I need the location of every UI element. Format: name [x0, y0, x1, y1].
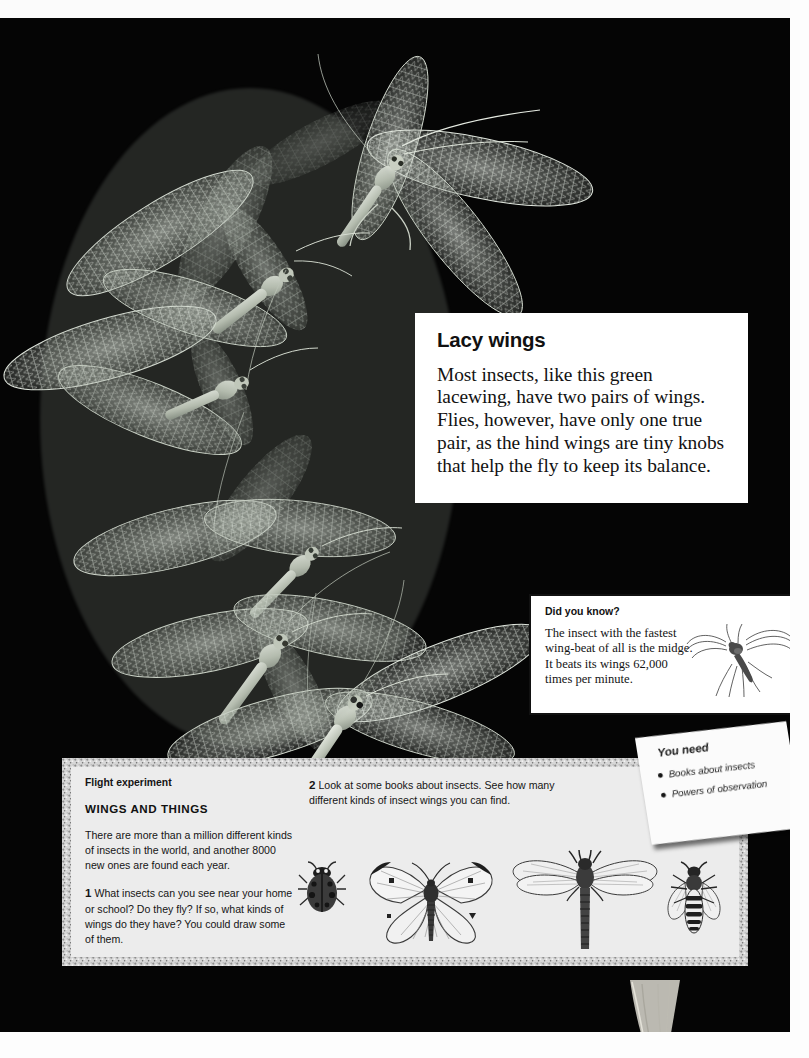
step-2-number: 2 — [309, 778, 315, 791]
ladybird-illustration — [298, 862, 346, 912]
bullet-icon: ● — [656, 770, 664, 781]
dragonfly-illustration — [513, 850, 657, 949]
lacy-wings-caption-box: Lacy wings Most insects, like this green… — [415, 313, 748, 503]
lacy-wings-body: Most insects, like this green lacewing, … — [437, 364, 728, 479]
butterfly-illustration — [370, 862, 492, 943]
flight-experiment-intro: There are more than a million different … — [85, 828, 295, 873]
plant-stem — [624, 980, 686, 1032]
you-need-content: You need ● Books about insects ● Powers … — [635, 721, 803, 845]
did-you-know-body: The insect with the fastest wing-beat of… — [545, 626, 697, 688]
lacy-wings-title: Lacy wings — [437, 330, 728, 351]
page-margin-right — [790, 0, 809, 1058]
did-you-know-box: Did you know? The insect with the fastes… — [529, 594, 800, 715]
you-need-item-1-label: Books about insects — [668, 759, 756, 779]
flight-experiment-step-1: 1 What insects can you see near your hom… — [85, 885, 295, 947]
flight-experiment-heading: WINGS AND THINGS — [85, 803, 295, 816]
step-1-text: What insects can you see near your home … — [85, 887, 292, 945]
page-margin-bottom — [0, 1032, 809, 1058]
flight-experiment-step-2: 2 Look at some books about insects. See … — [309, 777, 559, 808]
did-you-know-title: Did you know? — [545, 606, 788, 617]
you-need-item-2: ● Powers of observation — [659, 777, 786, 802]
you-need-note: You need ● Books about insects ● Powers … — [635, 718, 802, 848]
step-1-number: 1 — [85, 886, 91, 899]
you-need-item-2-label: Powers of observation — [671, 779, 768, 800]
wasp-illustration — [668, 862, 720, 933]
page-margin-top — [0, 0, 809, 18]
book-page: Lacy wings Most insects, like this green… — [0, 0, 809, 1058]
flight-experiment-kicker: Flight experiment — [85, 777, 295, 788]
flight-experiment-content: Flight experiment WINGS AND THINGS There… — [71, 767, 739, 957]
flight-experiment-right-column: 2 Look at some books about insects. See … — [309, 777, 559, 808]
you-need-title: You need — [657, 734, 780, 759]
flight-experiment-left-column: Flight experiment WINGS AND THINGS There… — [85, 777, 295, 957]
insect-illustration-row — [287, 849, 739, 949]
bullet-icon: ● — [659, 790, 667, 801]
midge-illustration — [682, 620, 794, 698]
step-2-text: Look at some books about insects. See ho… — [309, 779, 555, 806]
